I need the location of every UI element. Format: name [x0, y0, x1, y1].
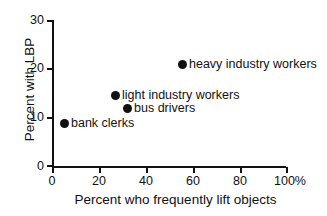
y-axis-title: Percent with LBP [22, 15, 37, 165]
y-axis-line [52, 20, 54, 167]
x-axis-line [52, 166, 286, 168]
x-tick-40 [146, 167, 148, 173]
data-point-light-industry-workers [111, 91, 120, 100]
x-tick-label-100: 100% [274, 175, 306, 188]
data-point-bus-drivers [123, 104, 132, 113]
y-tick-30 [47, 20, 53, 22]
data-point-heavy-industry-workers [178, 60, 187, 69]
y-tick-20 [47, 68, 53, 70]
x-tick-label-60: 60 [186, 175, 200, 188]
y-tick-10 [47, 117, 53, 119]
data-label-heavy-industry-workers: heavy industry workers [189, 58, 317, 71]
data-point-bank-clerks [60, 119, 69, 128]
x-tick-100 [286, 167, 288, 173]
x-tick-0 [52, 167, 54, 173]
x-tick-label-40: 40 [139, 175, 153, 188]
data-label-light-industry-workers: light industry workers [122, 89, 239, 102]
x-tick-60 [193, 167, 195, 173]
x-tick-label-80: 80 [233, 175, 247, 188]
scatter-chart: 30 20 10 0 0 20 40 60 80 100% Percent wh… [0, 0, 327, 216]
data-label-bus-drivers: bus drivers [134, 102, 195, 115]
x-tick-20 [99, 167, 101, 173]
x-axis-title: Percent who frequently lift objects [0, 192, 327, 207]
x-tick-label-0: 0 [49, 175, 56, 188]
x-tick-80 [240, 167, 242, 173]
data-label-bank-clerks: bank clerks [71, 117, 134, 130]
x-tick-label-20: 20 [92, 175, 106, 188]
